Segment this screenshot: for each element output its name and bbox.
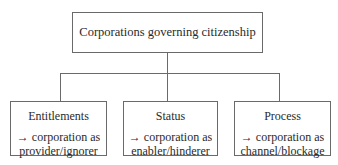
node-status: Status → corporation as enabler/hinderer [123, 101, 218, 156]
arrow-icon: → [241, 130, 253, 144]
node-title: Process [235, 109, 330, 123]
node-description: → corporation as channel/blockage [235, 130, 330, 158]
node-title: Entitlements [11, 109, 106, 123]
root-node-label: Corporations governing citizenship [79, 25, 255, 40]
arrow-icon: → [129, 130, 141, 144]
node-description: → corporation as enabler/hinderer [124, 130, 217, 158]
node-description: → corporation as provider/ignorer [11, 130, 106, 158]
root-node: Corporations governing citizenship [72, 12, 263, 53]
node-process: Process → corporation as channel/blockag… [234, 101, 331, 156]
arrow-icon: → [17, 130, 29, 144]
node-entitlements: Entitlements → corporation as provider/i… [10, 101, 107, 156]
node-title: Status [124, 109, 217, 123]
